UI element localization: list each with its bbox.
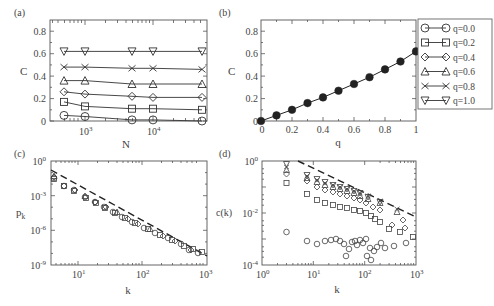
panel-c-xlabel: k <box>125 284 131 296</box>
panel-a: (a) <box>14 7 207 150</box>
svg-text:103: 103 <box>199 268 213 280</box>
panel-c-markers <box>51 173 205 256</box>
panel-d-xlabel: k <box>334 283 340 295</box>
ytick-exp: -9 <box>40 259 46 267</box>
panel-b-ticks <box>261 20 416 121</box>
svg-text:100: 100 <box>245 155 259 167</box>
panel-b-label: (b) <box>219 7 231 19</box>
xtick-exp: 3 <box>209 268 213 276</box>
xtick-label: 0.4 <box>317 124 330 135</box>
ytick-label: 0.6 <box>246 48 259 59</box>
panel-d-markers-q0 <box>284 229 409 263</box>
ytick-label: 0.4 <box>246 71 259 82</box>
ytick-exp: -3 <box>40 190 46 198</box>
ytick-exp: -2 <box>252 207 258 215</box>
xtick-exp: 1 <box>82 268 86 276</box>
svg-text:101: 101 <box>307 268 321 280</box>
svg-text:104: 104 <box>147 125 161 137</box>
xtick-exp: 2 <box>368 268 372 276</box>
panel-a-xticks <box>53 20 201 121</box>
svg-text:100: 100 <box>256 268 270 280</box>
panel-c-ylabel: pk <box>16 206 26 221</box>
panel-a-markers-q0 <box>60 111 206 125</box>
xtick-base: 10 <box>147 126 157 137</box>
svg-text:101: 101 <box>72 268 86 280</box>
ytick-label: 0.6 <box>34 48 47 59</box>
ytick-exp: -4 <box>252 259 258 267</box>
legend-entry: q=0.4 <box>453 53 475 63</box>
xtick-base: 10 <box>79 126 89 137</box>
ylabel-sub: k <box>22 212 26 221</box>
panel-d-markers-q10 <box>284 162 384 206</box>
legend-entry: q=0.6 <box>453 67 475 77</box>
panel-c-ytick-labels: 100 10-3 10-6 10-9 <box>30 155 46 271</box>
xtick-label: 0.8 <box>379 124 392 135</box>
panel-a-xtick-labels: 103 104 <box>79 125 161 137</box>
panel-b-xlabel: q <box>335 136 341 148</box>
panel-c: (c) <box>14 148 213 296</box>
panel-d-ylabel: c(k) <box>216 207 232 219</box>
xtick-exp: 0 <box>266 268 270 276</box>
xtick-label: 0 <box>260 124 265 135</box>
svg-text:102: 102 <box>358 268 372 280</box>
panel-a-ylabel: C <box>20 65 27 77</box>
panel-c-xtick-labels: 101 102 103 <box>72 268 213 280</box>
panel-d-label: (d) <box>219 148 231 160</box>
panel-d-xtick-labels: 100 101 102 103 <box>256 268 424 280</box>
panel-b-ytick-labels: 0 0.2 0.4 0.6 0.8 <box>246 26 259 127</box>
ytick-label: 0.8 <box>34 26 47 37</box>
legend-entry: q=0.2 <box>453 38 475 48</box>
panel-d-ytick-labels: 100 10-2 10-4 <box>242 155 258 271</box>
xtick-exp: 3 <box>420 268 424 276</box>
panel-c-label: (c) <box>14 148 25 160</box>
svg-text:10-9: 10-9 <box>30 259 46 271</box>
panel-b-line <box>261 51 416 121</box>
ytick-label: 0.2 <box>246 93 259 104</box>
svg-text:103: 103 <box>410 268 424 280</box>
xtick-exp: 3 <box>89 125 93 133</box>
ytick-label: 0 <box>41 116 46 127</box>
legend-entry: q=1.0 <box>453 96 475 106</box>
panel-a-markers-q04 <box>60 88 206 102</box>
svg-text:10-3: 10-3 <box>30 190 46 202</box>
figure: (a) <box>0 0 494 306</box>
panel-a-markers-q06 <box>60 77 206 88</box>
legend-entry: q=0.8 <box>453 82 475 92</box>
legend-entry: q=0.0 <box>453 24 475 34</box>
xtick-exp: 1 <box>317 268 321 276</box>
ytick-exp: 0 <box>43 155 47 163</box>
legend: q=0.0 q=0.2 q=0.4 q=0.6 q=0.8 q=1.0 <box>418 19 492 109</box>
svg-text:10-6: 10-6 <box>30 224 46 236</box>
panel-d-markers-q04 <box>284 171 409 231</box>
svg-text:100: 100 <box>33 155 47 167</box>
ytick-exp: 0 <box>255 155 259 163</box>
panel-a-ytick-labels: 0 0.2 0.4 0.6 0.8 <box>34 26 47 127</box>
xtick-label: 0.2 <box>286 124 299 135</box>
panel-d: (d) <box>216 148 424 295</box>
xtick-exp: 2 <box>146 268 150 276</box>
panel-a-label: (a) <box>14 7 25 19</box>
panel-a-xlabel: N <box>122 138 130 150</box>
xtick-label: 1 <box>414 124 419 135</box>
svg-text:102: 102 <box>136 268 150 280</box>
ytick-label: 0.8 <box>246 26 259 37</box>
panel-d-markers-q06 <box>284 167 401 215</box>
panel-b: (b) 0 0.2 0.4 0.6 0.8 <box>219 7 492 148</box>
panel-d-frame <box>262 161 416 265</box>
panel-b-ylabel: C <box>228 65 235 77</box>
panel-b-xtick-labels: 0 0.2 0.4 0.6 0.8 1 <box>260 124 419 135</box>
panel-a-series-lines <box>64 51 202 121</box>
ytick-label: 0.2 <box>34 93 47 104</box>
ytick-label: 0.4 <box>34 71 47 82</box>
svg-text:10-2: 10-2 <box>242 207 258 219</box>
xtick-label: 0.6 <box>348 124 361 135</box>
panel-b-frame <box>261 20 416 121</box>
svg-text:103: 103 <box>79 125 93 137</box>
xtick-exp: 4 <box>157 125 161 133</box>
panel-d-ticks <box>262 161 416 265</box>
ytick-exp: -6 <box>40 224 46 232</box>
